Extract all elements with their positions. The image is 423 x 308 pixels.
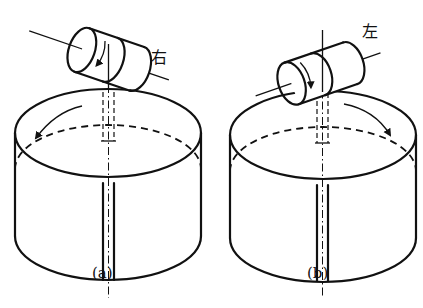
- roller-b: [249, 32, 388, 117]
- rotation-arrow-ccw-icon: [36, 106, 82, 138]
- label-left-hand: 左: [362, 18, 378, 42]
- label-right-hand: 右: [151, 44, 167, 68]
- caption-a: (a): [92, 264, 113, 282]
- caption-b: (b): [307, 264, 328, 282]
- rotation-arrow-cw-icon: [344, 104, 390, 135]
- panel-b: [230, 30, 416, 298]
- diagram-canvas: [0, 0, 423, 308]
- panel-a: [15, 10, 201, 298]
